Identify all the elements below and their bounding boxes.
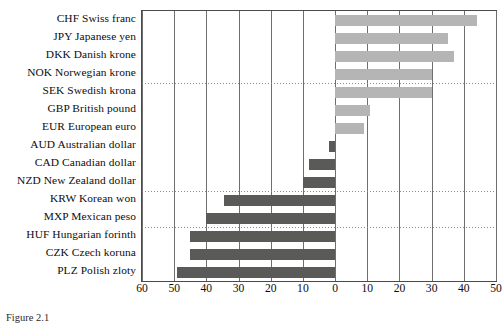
bar <box>303 177 335 188</box>
x-tick-label: 10 <box>361 283 373 295</box>
x-tick-label: 20 <box>265 283 277 295</box>
x-tick-label: 50 <box>490 283 502 295</box>
category-label: HUF Hungarian forinth <box>26 229 136 240</box>
bar <box>335 33 448 44</box>
bar <box>177 267 335 278</box>
category-label: CHF Swiss franc <box>57 13 136 24</box>
category-label: CAD Canadian dollar <box>35 157 136 168</box>
bar <box>224 195 335 206</box>
category-label: MXP Mexican peso <box>44 211 136 222</box>
x-tick-label: 60 <box>136 283 148 295</box>
category-label: AUD Australian dollar <box>30 139 136 150</box>
category-label: CZK Czech koruna <box>46 247 136 258</box>
bar <box>309 159 335 170</box>
bar <box>206 213 335 224</box>
bar <box>335 15 477 26</box>
x-tick-label: 50 <box>168 283 180 295</box>
category-label: NOK Norwegian krone <box>27 67 136 78</box>
x-tick-label: 30 <box>233 283 245 295</box>
figure-caption: Figure 2.1 <box>6 311 496 325</box>
x-tick-label: 0 <box>332 283 338 295</box>
category-label: JPY Japanese yen <box>53 31 136 42</box>
gridline-horizontal-dotted <box>142 227 496 228</box>
category-label: DKK Danish krone <box>46 49 136 60</box>
x-tick-label: 20 <box>394 283 406 295</box>
gridline-vertical <box>464 11 465 281</box>
category-label-column: CHF Swiss francJPY Japanese yenDKK Danis… <box>0 10 140 282</box>
category-label: SEK Swedish krona <box>43 85 136 96</box>
plot-inner <box>142 11 496 281</box>
bar <box>335 87 432 98</box>
bar <box>335 123 364 134</box>
bar <box>190 231 335 242</box>
x-tick-label: 40 <box>201 283 213 295</box>
plot-area <box>141 10 497 282</box>
bar <box>335 51 454 62</box>
category-label: KRW Korean won <box>50 193 136 204</box>
x-tick-label: 40 <box>458 283 470 295</box>
x-tick-label: 30 <box>426 283 438 295</box>
gridline-vertical <box>496 11 497 281</box>
gridline-vertical <box>142 11 143 281</box>
category-label: PLZ Polish zloty <box>57 265 136 276</box>
gridline-horizontal-dotted <box>142 191 496 192</box>
bar <box>335 69 432 80</box>
bar <box>335 105 370 116</box>
category-label: EUR European euro <box>42 121 136 132</box>
bar <box>190 249 335 260</box>
x-axis-tick-labels: 60504030201001020304050 <box>141 283 497 299</box>
gridline-horizontal-dotted <box>142 83 496 84</box>
x-tick-label: 10 <box>297 283 309 295</box>
gridline-vertical <box>174 11 175 281</box>
category-label: NZD New Zealand dollar <box>17 175 136 186</box>
bar <box>329 141 335 152</box>
category-label: GBP British pound <box>47 103 136 114</box>
